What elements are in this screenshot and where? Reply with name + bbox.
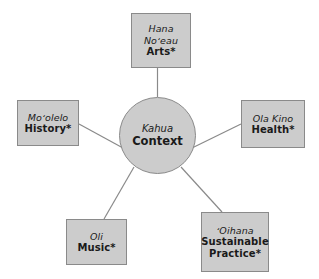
node-music[interactable]: Oli Music* [66, 219, 127, 265]
node-history[interactable]: Moʻolelo History* [17, 100, 79, 146]
hub-english: Context [132, 135, 183, 149]
connector-hub-to-history [79, 124, 123, 148]
node-history-english: History* [25, 123, 72, 135]
connector-hub-to-practice [181, 167, 222, 212]
node-health-english: Health* [251, 124, 294, 136]
node-arts[interactable]: Hana Noʻeau Arts* [131, 13, 191, 68]
connector-hub-to-health [192, 124, 241, 148]
node-history-hawaiian: Moʻolelo [28, 112, 69, 123]
node-practice-english-line1: Sustainable [201, 236, 269, 248]
hub-and-spoke-diagram: Hana Noʻeau Arts* Moʻolelo History* Ola … [0, 0, 319, 279]
node-sustainable-practice[interactable]: ʻOihana Sustainable Practice* [201, 212, 269, 272]
node-arts-english: Arts* [146, 46, 175, 58]
node-arts-hawaiian-line1: Hana [148, 23, 173, 34]
node-practice-english-line2: Practice* [209, 248, 261, 260]
node-music-english: Music* [77, 242, 115, 254]
node-practice-hawaiian: ʻOihana [216, 225, 254, 236]
hub-context[interactable]: Kahua Context [119, 97, 196, 174]
node-music-hawaiian: Oli [90, 231, 103, 242]
node-health[interactable]: Ola Kino Health* [241, 100, 305, 148]
node-health-hawaiian: Ola Kino [253, 113, 293, 124]
connector-hub-to-music [104, 167, 134, 219]
node-arts-hawaiian-line2: Noʻeau [144, 35, 178, 46]
hub-hawaiian: Kahua [142, 123, 173, 135]
